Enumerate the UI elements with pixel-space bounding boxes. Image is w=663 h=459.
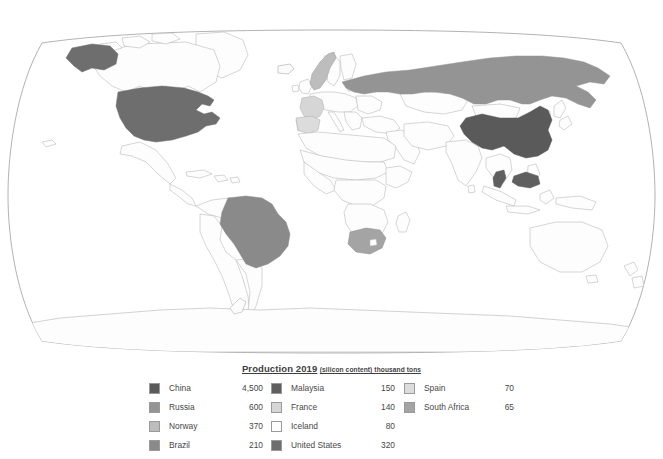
legend-item-brazil[interactable]: Brazil 210 <box>149 436 271 454</box>
legend-column-2: Malaysia 150 France 140 Iceland 80 Unite… <box>271 379 404 454</box>
legend-item-united-states[interactable]: United States 320 <box>271 436 404 454</box>
legend-label-russia: Russia <box>169 402 231 412</box>
legend-value-france: 140 <box>367 402 395 412</box>
page-root: Production 2019 (silicon content) thousa… <box>0 0 663 459</box>
legend-value-south-africa: 65 <box>494 402 514 412</box>
legend-swatch-malaysia <box>271 383 282 394</box>
legend-item-china[interactable]: China 4,500 <box>149 379 271 397</box>
legend-label-brazil: Brazil <box>169 440 231 450</box>
legend-label-south-africa: South Africa <box>424 402 494 412</box>
legend-label-france: France <box>291 402 367 412</box>
legend-swatch-china <box>149 383 160 394</box>
legend-columns: China 4,500 Russia 600 Norway 370 Brazil… <box>0 379 663 454</box>
legend-swatch-france <box>271 402 282 413</box>
legend-value-united-states: 320 <box>367 440 395 450</box>
legend-column-1: China 4,500 Russia 600 Norway 370 Brazil… <box>149 379 271 454</box>
world-map <box>0 0 663 360</box>
legend-title: Production 2019 (silicon content) thousa… <box>0 360 663 374</box>
legend-swatch-brazil <box>149 440 160 451</box>
legend-label-spain: Spain <box>424 383 494 393</box>
legend-label-united-states: United States <box>291 440 367 450</box>
legend-item-iceland[interactable]: Iceland 80 <box>271 417 404 435</box>
legend-value-spain: 70 <box>494 383 514 393</box>
legend-value-brazil: 210 <box>231 440 263 450</box>
legend-item-south-africa[interactable]: South Africa 65 <box>404 398 514 416</box>
legend-item-france[interactable]: France 140 <box>271 398 404 416</box>
legend-item-spain[interactable]: Spain 70 <box>404 379 514 397</box>
legend-swatch-iceland <box>271 421 282 432</box>
legend-title-main: Production 2019 <box>242 363 317 374</box>
legend-item-russia[interactable]: Russia 600 <box>149 398 271 416</box>
legend-value-norway: 370 <box>231 421 263 431</box>
legend-column-3: Spain 70 South Africa 65 <box>404 379 514 416</box>
legend-swatch-norway <box>149 421 160 432</box>
legend-label-iceland: Iceland <box>291 421 367 431</box>
legend-value-malaysia: 150 <box>367 383 395 393</box>
legend-value-russia: 600 <box>231 402 263 412</box>
legend-item-norway[interactable]: Norway 370 <box>149 417 271 435</box>
legend-label-malaysia: Malaysia <box>291 383 367 393</box>
legend-item-malaysia[interactable]: Malaysia 150 <box>271 379 404 397</box>
legend-value-iceland: 80 <box>367 421 395 431</box>
legend-title-subtitle: (silicon content) thousand tons <box>320 366 421 373</box>
legend-label-norway: Norway <box>169 421 231 431</box>
legend-label-china: China <box>169 383 231 393</box>
legend-swatch-russia <box>149 402 160 413</box>
map-legend: Production 2019 (silicon content) thousa… <box>0 360 663 459</box>
legend-swatch-south-africa <box>404 402 415 413</box>
legend-value-china: 4,500 <box>231 383 263 393</box>
legend-swatch-spain <box>404 383 415 394</box>
legend-swatch-united-states <box>271 440 282 451</box>
